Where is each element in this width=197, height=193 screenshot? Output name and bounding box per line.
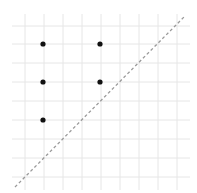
data-point	[97, 41, 102, 46]
data-point	[40, 117, 45, 122]
data-point	[40, 41, 45, 46]
background	[0, 0, 197, 193]
data-point	[40, 79, 45, 84]
data-point	[97, 79, 102, 84]
dot-grid-diagram	[0, 0, 197, 193]
